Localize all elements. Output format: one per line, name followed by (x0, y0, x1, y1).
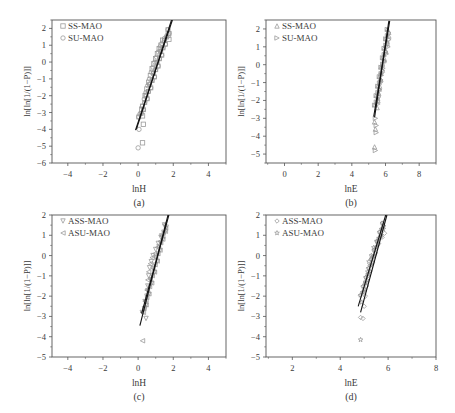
y-tick-label: −3 (37, 311, 46, 321)
y-tick-label: 1 (42, 230, 46, 240)
legend-item: ASS-MAO (275, 216, 323, 226)
plot-area (135, 20, 172, 150)
x-tick-label: 6 (383, 169, 387, 179)
x-tick-label: 2 (171, 363, 175, 373)
x-tick-label: 6 (386, 363, 390, 373)
fit-line (375, 21, 389, 118)
y-tick-label: −1 (37, 74, 46, 84)
y-tick-label: −4 (37, 124, 47, 134)
y-tick-label: 1 (42, 40, 46, 50)
plot-area (358, 215, 387, 342)
x-axis-label: lnH (132, 378, 146, 388)
y-tick-label: 2 (256, 24, 260, 34)
y-tick-label: −1 (37, 271, 46, 281)
x-tick-label: −2 (98, 363, 107, 373)
y-tick-label: −4 (251, 332, 261, 342)
x-axis-label: lnH (132, 184, 146, 194)
plot-area (372, 21, 391, 153)
legend-item: ASS-MAO (61, 216, 109, 226)
legend-marker-square (61, 24, 65, 28)
chart-panel-a: 210−1−2−3−4−5−6−4−2024lnHln[ln[1/(1−P)]]… (22, 20, 226, 209)
y-tick-label: −4 (251, 131, 261, 141)
y-tick-label: 0 (256, 251, 260, 261)
legend-item: SU-MAO (275, 33, 318, 43)
x-tick-label: 8 (417, 169, 421, 179)
x-tick-label: 0 (282, 169, 286, 179)
chart-panel-d: 210−1−2−3−4−52468lnEln[ln[1/(1−P)]](d)AS… (236, 210, 438, 403)
y-tick-label: −4 (37, 332, 47, 342)
fit-line (136, 20, 171, 129)
fit-line (361, 215, 387, 312)
y-axis-label: ln[ln[1/(1−P)]] (22, 66, 32, 117)
y-tick-label: −2 (37, 91, 46, 101)
y-tick-label: 2 (42, 23, 46, 33)
data-point-circle (136, 146, 140, 150)
legend-marker-circle (61, 36, 65, 40)
legend-label: SU-MAO (282, 33, 318, 43)
panel-caption: (b) (345, 197, 357, 209)
y-tick-label: −5 (251, 352, 260, 362)
y-tick-label: −2 (251, 291, 260, 301)
chart-panel-c: 210−1−2−3−4−5−4−2024lnHln[ln[1/(1−P)]](c… (22, 210, 226, 403)
fit-line (142, 215, 169, 313)
legend-label: ASU-MAO (68, 228, 111, 238)
legend-label: SU-MAO (68, 33, 104, 43)
y-tick-label: −3 (251, 113, 260, 123)
legend: ASS-MAOASU-MAO (61, 216, 111, 238)
y-tick-label: 2 (256, 210, 260, 220)
y-tick-label: −1 (251, 271, 260, 281)
weibull-plots-figure: 210−1−2−3−4−5−6−4−2024lnHln[ln[1/(1−P)]]… (0, 0, 455, 413)
panel-caption: (c) (133, 391, 144, 403)
legend-item: ASU-MAO (275, 228, 325, 238)
legend: SS-MAOSU-MAO (275, 21, 318, 43)
legend-label: ASS-MAO (282, 216, 323, 226)
legend-item: SS-MAO (61, 21, 103, 31)
legend-marker-triangle-right (275, 36, 279, 40)
x-tick-label: 2 (171, 169, 175, 179)
legend-label: ASS-MAO (68, 216, 109, 226)
y-tick-label: 1 (256, 230, 260, 240)
x-axis-label: lnE (344, 184, 357, 194)
y-tick-label: 0 (42, 251, 46, 261)
x-tick-label: 2 (290, 363, 294, 373)
x-tick-label: 4 (206, 363, 211, 373)
series-su-mao (136, 28, 171, 150)
x-tick-label: 2 (316, 169, 320, 179)
y-tick-label: −2 (37, 291, 46, 301)
legend: ASS-MAOASU-MAO (275, 216, 325, 238)
figure: 210−1−2−3−4−5−6−4−2024lnHln[ln[1/(1−P)]]… (0, 0, 455, 413)
y-tick-label: 1 (256, 42, 260, 52)
panel-caption: (d) (345, 391, 357, 403)
x-tick-label: −4 (63, 363, 73, 373)
chart-panel-b: 210−1−2−3−4−502468lnEln[ln[1/(1−P)]](b)S… (236, 20, 436, 209)
data-point-triangle-down (144, 316, 148, 320)
y-tick-label: −5 (37, 141, 46, 151)
y-tick-label: −2 (251, 95, 260, 105)
y-tick-label: −6 (37, 158, 46, 168)
y-axis-label: ln[ln[1/(1−P)]] (236, 261, 246, 312)
data-point-triangle-right (374, 123, 378, 127)
data-point-circle (137, 127, 141, 131)
data-point-triangle-left (140, 339, 144, 343)
x-tick-label: −4 (63, 169, 73, 179)
y-tick-label: −3 (37, 108, 46, 118)
legend-label: SS-MAO (68, 21, 103, 31)
plot-area (140, 215, 169, 343)
data-point-square (140, 141, 144, 145)
legend-item: SU-MAO (61, 33, 104, 43)
y-tick-label: −5 (37, 352, 46, 362)
x-tick-label: 4 (206, 169, 211, 179)
x-tick-label: 0 (136, 169, 140, 179)
x-tick-label: 8 (434, 363, 438, 373)
y-tick-label: −3 (251, 311, 260, 321)
y-axis-label: ln[ln[1/(1−P)]] (236, 66, 246, 117)
legend-marker-diamond (275, 219, 279, 223)
y-tick-label: 2 (42, 210, 46, 220)
data-point-square (141, 122, 145, 126)
y-tick-label: 0 (256, 60, 260, 70)
legend-marker-triangle-left (61, 231, 65, 235)
fit-line (358, 215, 386, 306)
x-tick-label: 4 (338, 363, 343, 373)
series-su-mao (372, 27, 391, 152)
y-tick-label: −5 (251, 149, 260, 159)
